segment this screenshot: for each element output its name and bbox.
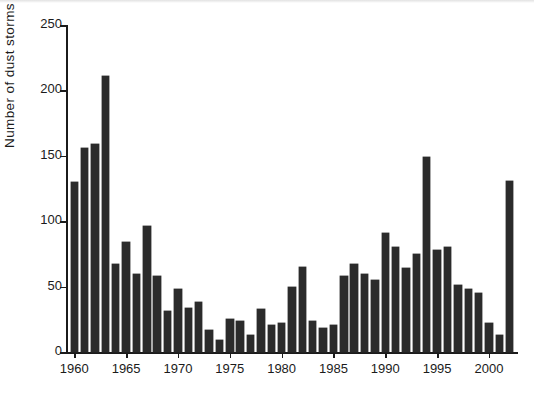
bar	[454, 285, 461, 352]
x-tick-label: 1995	[423, 361, 452, 376]
y-tick-label: 100	[40, 212, 62, 227]
bar	[174, 289, 181, 352]
bar	[268, 325, 275, 352]
bar	[288, 287, 295, 352]
bar	[361, 274, 368, 352]
bar	[485, 323, 492, 352]
x-tick-label: 2000	[475, 361, 504, 376]
y-tick-label: 50	[48, 278, 62, 293]
x-tick-mark-1995	[437, 352, 439, 358]
bar	[81, 148, 88, 352]
bar	[319, 328, 326, 352]
x-tick-mark-1990	[385, 352, 387, 358]
bar	[112, 264, 119, 352]
bar	[465, 289, 472, 352]
x-tick-label: 1985	[319, 361, 348, 376]
plot-area: 050100150200250 196019651970197519801985…	[66, 25, 518, 352]
bar	[164, 311, 171, 352]
bar	[371, 280, 378, 352]
bar	[330, 325, 337, 352]
x-tick-label: 1980	[267, 361, 296, 376]
bar	[91, 144, 98, 352]
x-tick-mark-1975	[230, 352, 232, 358]
x-tick-mark-1980	[282, 352, 284, 358]
bar	[236, 321, 243, 352]
x-tick-label: 1970	[163, 361, 192, 376]
bar	[247, 335, 254, 352]
bar	[133, 274, 140, 352]
bar	[205, 330, 212, 352]
bar	[340, 276, 347, 352]
bar	[71, 182, 78, 352]
bar	[257, 309, 264, 352]
x-tick-mark-1965	[126, 352, 128, 358]
x-tick-mark-1960	[74, 352, 76, 358]
x-tick-mark-1970	[178, 352, 180, 358]
x-tick-label: 1965	[112, 361, 141, 376]
x-tick-mark-2000	[489, 352, 491, 358]
y-axis-line	[66, 25, 68, 352]
chart-figure: Number of dust storms 050100150200250 19…	[0, 0, 534, 408]
bar	[423, 157, 430, 352]
y-tick-label: 250	[40, 16, 62, 31]
bar	[382, 233, 389, 352]
bar	[402, 268, 409, 352]
bar	[299, 267, 306, 352]
bar	[413, 254, 420, 352]
x-tick-label: 1960	[60, 361, 89, 376]
bar	[143, 226, 150, 352]
y-tick-label: 0	[55, 343, 62, 358]
x-axis-line	[66, 352, 518, 354]
bar	[506, 181, 513, 352]
bar	[309, 321, 316, 352]
bar	[496, 335, 503, 352]
bar	[278, 323, 285, 352]
scan-edge	[0, 0, 534, 3]
bar	[433, 250, 440, 352]
bar	[350, 264, 357, 352]
bar	[444, 247, 451, 352]
x-tick-label: 1975	[215, 361, 244, 376]
bar	[122, 242, 129, 352]
bar	[392, 247, 399, 352]
y-axis-label: Number of dust storms	[2, 0, 17, 148]
bar	[195, 302, 202, 352]
bar	[153, 276, 160, 352]
bar	[102, 76, 109, 352]
y-tick-label: 200	[40, 81, 62, 96]
x-tick-label: 1990	[371, 361, 400, 376]
y-tick-label: 150	[40, 147, 62, 162]
x-tick-mark-1985	[333, 352, 335, 358]
bar	[475, 293, 482, 352]
bar	[185, 308, 192, 352]
bar	[216, 340, 223, 352]
bar	[226, 319, 233, 352]
